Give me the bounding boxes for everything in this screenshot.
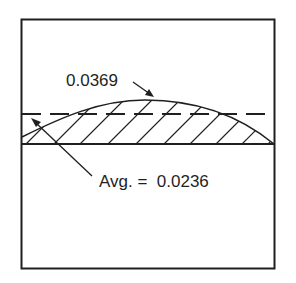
peak-arrow-icon [133, 82, 154, 97]
average-value-label: Avg. = 0.0236 [99, 172, 209, 191]
profile-diagram: 0.0369 Avg. = 0.0236 [0, 0, 296, 283]
average-arrow-icon [31, 118, 92, 176]
peak-value-label: 0.0369 [66, 71, 118, 90]
